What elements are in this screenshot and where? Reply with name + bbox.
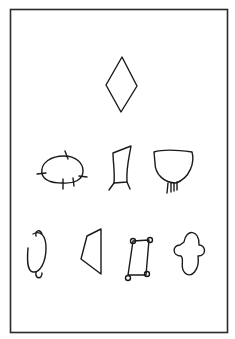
figure-canvas (0, 0, 235, 339)
ellipse-with-ticks-shape (37, 151, 87, 189)
cup-with-fringe-shape (154, 150, 193, 193)
rectangle-with-corner-loops-shape (126, 238, 153, 281)
cloud-shape (174, 233, 204, 275)
oval-with-knobs-shape (28, 231, 46, 278)
figure-frame (11, 10, 228, 333)
diamond-shape (106, 57, 137, 112)
open-trapezoid-shape (81, 229, 101, 274)
trapezoid-with-legs-shape (109, 146, 131, 190)
